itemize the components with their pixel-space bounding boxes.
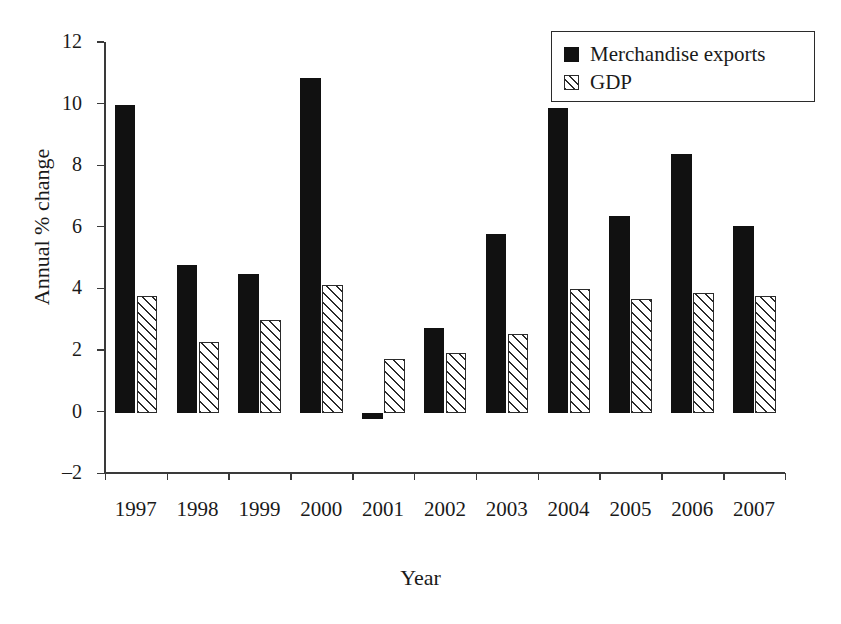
bar-2003-gdp (508, 334, 529, 413)
x-axis-title: Year (0, 565, 841, 591)
y-tick (97, 473, 104, 474)
y-tick-label: –2 (22, 462, 82, 482)
chart-legend: Merchandise exports GDP (551, 31, 815, 102)
x-tick (723, 473, 724, 480)
y-tick-label: 10 (22, 93, 82, 113)
x-tick (414, 473, 415, 480)
x-tick (538, 473, 539, 480)
x-tick-label-2007: 2007 (709, 497, 799, 521)
bar-2004-exports (548, 108, 569, 413)
legend-item-gdp: GDP (564, 68, 804, 96)
y-tick (97, 288, 104, 289)
x-tick (352, 473, 353, 480)
legend-item-merchandise-exports: Merchandise exports (564, 40, 804, 68)
legend-swatch-solid-icon (564, 47, 579, 62)
bar-1998-exports (177, 265, 198, 413)
plot-area (105, 43, 785, 473)
bar-2005-gdp (631, 299, 652, 413)
y-tick (97, 103, 104, 104)
bar-2005-exports (609, 216, 630, 413)
x-tick (290, 473, 291, 480)
bar-2002-gdp (446, 353, 467, 413)
y-tick-label: 2 (22, 339, 82, 359)
bar-2006-exports (671, 154, 692, 413)
bar-2006-gdp (693, 293, 714, 413)
x-tick (599, 473, 600, 480)
y-tick (97, 411, 104, 412)
y-tick-label: 8 (22, 154, 82, 174)
bar-chart: Annual % change –2024681012 199719981999… (0, 0, 841, 624)
legend-swatch-hatched-icon (564, 75, 579, 90)
bar-2004-gdp (570, 289, 591, 412)
x-tick (228, 473, 229, 480)
x-tick (167, 473, 168, 480)
y-tick (97, 165, 104, 166)
bar-1999-gdp (260, 320, 281, 412)
y-tick (97, 226, 104, 227)
x-tick (476, 473, 477, 480)
x-tick (661, 473, 662, 480)
bar-2000-exports (300, 78, 321, 412)
y-tick-label: 6 (22, 216, 82, 236)
x-tick (785, 473, 786, 480)
bar-2000-gdp (322, 285, 343, 413)
x-tick (105, 473, 106, 480)
y-tick-label: 12 (22, 31, 82, 51)
bar-2001-exports (362, 413, 383, 419)
legend-label: Merchandise exports (590, 43, 766, 65)
bar-1999-exports (238, 274, 259, 413)
y-tick-label: 0 (22, 401, 82, 421)
bar-1997-gdp (137, 296, 158, 413)
bar-2002-exports (424, 328, 445, 413)
bar-2001-gdp (384, 359, 405, 413)
bar-2007-exports (733, 226, 754, 412)
bar-2003-exports (486, 234, 507, 413)
y-tick-label: 4 (22, 277, 82, 297)
y-tick (97, 349, 104, 350)
bar-2007-gdp (755, 296, 776, 413)
bar-1998-gdp (199, 342, 220, 413)
legend-label: GDP (590, 71, 632, 93)
y-tick (97, 41, 104, 42)
bar-1997-exports (115, 105, 136, 413)
